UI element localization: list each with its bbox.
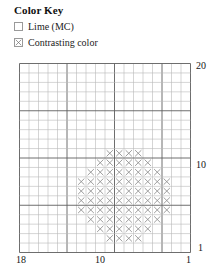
x-axis-tick-18: 18: [16, 255, 26, 265]
pattern-chart: [19, 63, 191, 253]
swatch-x-icon: [14, 38, 23, 47]
y-axis-tick-10: 10: [196, 160, 206, 170]
x-axis-tick-1: 1: [186, 255, 191, 265]
chart-grid-svg: [19, 63, 191, 253]
x-axis-tick-10: 10: [95, 255, 105, 265]
chart-grid: [19, 63, 191, 253]
color-key-label-lime: Lime (MC): [28, 21, 74, 32]
gridlines: [20, 64, 191, 253]
color-key-entry-contrasting: Contrasting color: [14, 35, 204, 49]
y-axis-tick-20: 20: [196, 61, 206, 71]
color-key-entry-lime: Lime (MC): [14, 19, 204, 33]
color-key: Color Key Lime (MC) Contrasting color: [14, 4, 204, 51]
y-axis-tick-1: 1: [198, 243, 203, 253]
swatch-empty-icon: [14, 22, 23, 31]
color-key-label-contrasting: Contrasting color: [28, 37, 98, 48]
color-key-title: Color Key: [14, 4, 204, 17]
